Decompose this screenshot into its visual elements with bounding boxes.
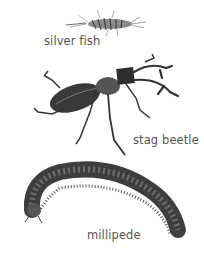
silverfish-drawing — [66, 10, 146, 36]
silverfish-label: silver fish — [44, 36, 100, 48]
drawings — [0, 0, 204, 259]
millipede-drawing — [25, 169, 178, 234]
stag-beetle-label: stag beetle — [133, 135, 199, 147]
specimen-illustration: silver fish stag beetle millipede — [0, 0, 204, 259]
millipede-label: millipede — [87, 230, 141, 242]
